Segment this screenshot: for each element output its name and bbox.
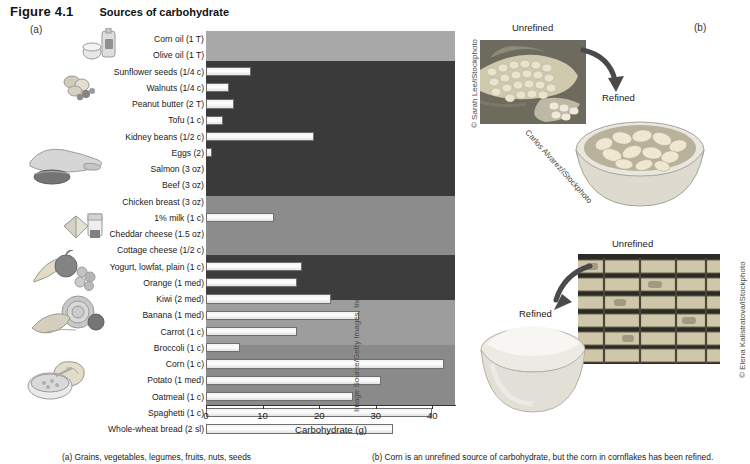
bar — [206, 343, 240, 352]
bar — [206, 83, 229, 92]
protein-meat-icon — [26, 140, 104, 188]
x-tick — [432, 405, 433, 409]
cornflakes-bowl — [570, 108, 710, 222]
bar-label: Corn oil (1 T) — [154, 31, 204, 47]
chart-row: Spaghetti (1 c) — [0, 405, 470, 421]
chart-row: Olive oil (1 T) — [0, 47, 470, 63]
bar-label: Carrot (1 c) — [161, 324, 204, 340]
cane-unrefined-label: Unrefined — [612, 238, 653, 249]
x-tick — [206, 405, 207, 409]
bar-label: Potato (1 med) — [147, 372, 204, 388]
bar-label: Olive oil (1 T) — [153, 47, 204, 63]
cane-refined-label: Refined — [519, 308, 552, 319]
bar-label: Kidney beans (1/2 c) — [125, 129, 204, 145]
x-tick-label: 20 — [314, 410, 325, 421]
x-tick-label: 40 — [427, 410, 438, 421]
bar-label: Salmon (3 oz) — [151, 161, 205, 177]
bar — [206, 116, 223, 125]
bar — [206, 359, 444, 368]
x-tick — [376, 405, 377, 409]
bar-label: Kiwi (2 med) — [156, 291, 204, 307]
chart-row: Chicken breast (3 oz) — [0, 194, 470, 210]
bar — [206, 294, 331, 303]
bar — [206, 278, 297, 287]
bar-label: Chicken breast (3 oz) — [122, 194, 204, 210]
x-tick-label: 10 — [257, 410, 268, 421]
grains-icon — [26, 356, 96, 402]
dairy-icon — [60, 210, 106, 244]
fruits-icon — [32, 250, 106, 294]
corn-photo-credit: © Sarah Lee/iStockphoto — [470, 39, 479, 128]
bar-label: Broccoli (1 c) — [154, 340, 204, 356]
x-tick-label: 0 — [203, 410, 208, 421]
nuts-seeds-icon — [58, 74, 100, 102]
corn-unrefined-label: Unrefined — [512, 22, 553, 33]
bar-label: Beef (3 oz) — [162, 177, 204, 193]
bar-label: Banana (1 med) — [142, 307, 204, 323]
caption-b: (b) Corn is an unrefined source of carbo… — [372, 452, 748, 463]
bar — [206, 132, 314, 141]
bar-label: Peanut butter (2 T) — [132, 96, 204, 112]
bar-label: Eggs (2) — [172, 145, 204, 161]
bar-label: Cheddar cheese (1.5 oz) — [109, 226, 204, 242]
bar — [206, 67, 251, 76]
chart-row: Tofu (1 c) — [0, 112, 470, 128]
bar — [206, 262, 302, 271]
bar-label: Whole-wheat bread (2 sl) — [108, 421, 204, 437]
bar — [206, 148, 212, 157]
sugarcane-photo — [578, 254, 720, 364]
bar-label: Walnuts (1/4 c) — [147, 80, 204, 96]
bar-label: Cottage cheese (1/2 c) — [117, 242, 204, 258]
sugar-bowl-credit: Image Source/Getty Images, Inc. — [352, 295, 361, 412]
corn-refined-label: Refined — [602, 92, 635, 103]
carbohydrate-bar-chart: Corn oil (1 T)Olive oil (1 T)Sunflower s… — [0, 0, 470, 440]
caption-a: (a) Grains, vegetables, legumes, fruits,… — [62, 452, 362, 463]
x-tick-label: 30 — [370, 410, 381, 421]
bar — [206, 311, 359, 320]
chart-row: Broccoli (1 c) — [0, 340, 470, 356]
bar-label: Sunflower seeds (1/4 c) — [114, 64, 204, 80]
figure-root: Figure 4.1 Sources of carbohydrate (a) (… — [0, 0, 750, 464]
bar-label: Tofu (1 c) — [168, 112, 204, 128]
vegetables-icon — [28, 292, 108, 338]
bar — [206, 213, 274, 222]
sugarcane-photo-credit: © Elena Kalistratova/iStockphoto — [738, 261, 747, 378]
bar-label: Oatmeal (1 c) — [152, 389, 204, 405]
bar-label: Corn (1 c) — [166, 356, 204, 372]
bar — [206, 327, 297, 336]
x-axis-line — [206, 405, 456, 406]
x-tick — [263, 405, 264, 409]
bar — [206, 99, 234, 108]
x-tick — [319, 405, 320, 409]
bar-label: Yogurt, lowfat, plain (1 c) — [110, 259, 204, 275]
fats-oils-icon — [82, 28, 122, 62]
sugar-bowl — [468, 320, 598, 432]
bar-label: 1% milk (1 c) — [154, 210, 204, 226]
bar-label: Orange (1 med) — [143, 275, 204, 291]
panel-b-label: (b) — [694, 22, 706, 33]
x-axis-title: Carbohydrate (g) — [206, 424, 456, 435]
bar — [206, 392, 353, 401]
chart-row: Corn oil (1 T) — [0, 31, 470, 47]
bar-label: Spaghetti (1 c) — [148, 405, 204, 421]
